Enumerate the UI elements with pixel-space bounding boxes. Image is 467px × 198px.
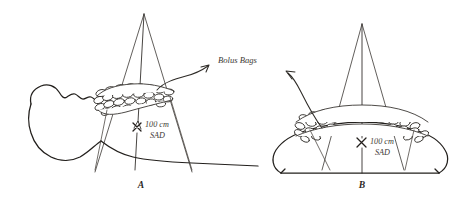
sad-distance-label-a: 100 cm [145,120,169,129]
bolus-bags-figure: 100 cm SAD A Bolus Bags [0,0,467,198]
panel-label-b: B [358,179,366,190]
figure-background [0,0,467,198]
sad-distance-label-b: 100 cm [370,137,394,146]
panel-label-a: A [137,179,144,190]
figure-root: 100 cm SAD A Bolus Bags [0,0,467,198]
sad-abbrev-label-b: SAD [375,148,390,157]
sad-abbrev-label-a: SAD [150,131,165,140]
bolus-bags-callout-label: Bolus Bags [218,55,258,65]
